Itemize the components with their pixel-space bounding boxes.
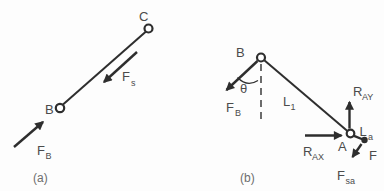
diagram-a: C B F s F B (a) [14, 9, 153, 185]
force-spring-label: F [122, 69, 130, 84]
force-sa-label: F [337, 168, 345, 183]
force-b-label: F [37, 143, 45, 158]
link-l1-line [264, 60, 347, 131]
caption-b: (b) [240, 171, 255, 185]
joint-b-circle [257, 54, 265, 62]
reaction-ax-label: R [303, 144, 312, 159]
point-a-label: A [338, 139, 347, 154]
reaction-ay-subscript: AY [362, 92, 373, 102]
caption-a: (a) [33, 171, 48, 185]
point-b-label: B [45, 102, 54, 117]
figure-canvas: C B F s F B (a) B θ F B L 1 [0, 0, 384, 191]
link-l1-subscript: 1 [291, 102, 296, 112]
joint-b-circle [56, 104, 64, 112]
force-sa-subscript: sa [346, 176, 356, 186]
force-b-subscript: B [46, 151, 52, 161]
force-b-label: F [226, 100, 234, 115]
link-la-subscript: a [368, 132, 373, 142]
force-f-label: F [369, 148, 377, 163]
force-sa-arrow [353, 144, 362, 157]
point-b-label: B [236, 45, 245, 60]
diagram-b: B θ F B L 1 R AY R AX A L a F F sa (b) [226, 45, 377, 186]
link-la-label: L [360, 124, 367, 139]
joint-c-circle [145, 25, 153, 33]
link-l1-label: L [283, 94, 290, 109]
reaction-ax-subscript: AX [312, 152, 324, 162]
force-spring-subscript: s [131, 78, 136, 88]
force-b-subscript: B [235, 108, 241, 118]
point-c-label: C [139, 9, 148, 24]
link-bc-line [63, 32, 146, 105]
free-body-diagram-svg: C B F s F B (a) B θ F B L 1 [0, 0, 384, 191]
reaction-ay-label: R [353, 84, 362, 99]
theta-label: θ [240, 81, 247, 96]
